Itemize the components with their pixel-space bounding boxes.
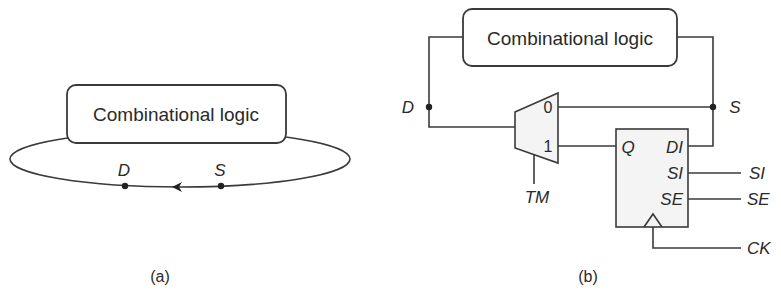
node-s-dot-b — [710, 104, 716, 110]
tm-label: TM — [525, 188, 550, 207]
ff-pin-se-label: SE — [660, 190, 683, 209]
node-d-label-a: D — [118, 161, 130, 180]
node-s-dot-a — [218, 183, 224, 189]
node-s-label-b: S — [729, 98, 741, 117]
ff-pin-si-label: SI — [667, 164, 683, 183]
node-d-dot-b — [426, 104, 432, 110]
wire-ck — [653, 227, 741, 248]
diagram-a: Combinational logic D S (a) — [10, 85, 350, 285]
signal-si-label: SI — [749, 164, 765, 183]
combinational-logic-label-b: Combinational logic — [487, 28, 653, 49]
diagram-b: Combinational logic D 0 1 TM S Q DI SI S… — [402, 9, 771, 285]
node-d-dot-a — [122, 183, 128, 189]
node-d-label-b: D — [402, 98, 414, 117]
signal-se-label: SE — [747, 190, 770, 209]
combinational-logic-label-a: Combinational logic — [93, 104, 259, 125]
mux-input-0-label: 0 — [544, 99, 553, 116]
ff-pin-q-label: Q — [621, 138, 634, 157]
caption-b: (b) — [578, 268, 598, 285]
ff-pin-di-label: DI — [666, 138, 683, 157]
signal-ck-label: CK — [747, 239, 771, 258]
caption-a: (a) — [150, 268, 170, 285]
node-s-label-a: S — [214, 161, 226, 180]
scan-flip-flop-diagram: Combinational logic D S (a) Combinationa… — [0, 0, 781, 305]
mux-input-1-label: 1 — [544, 138, 553, 155]
